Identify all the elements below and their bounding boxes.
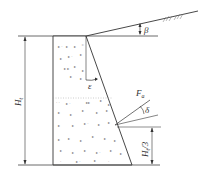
delta-label: δ	[145, 105, 150, 115]
svg-text:▸: ▸	[74, 44, 76, 49]
svg-text:▸ ▸: ▸ ▸	[64, 66, 69, 71]
svg-text:▸: ▸	[98, 122, 100, 127]
svg-text:▸: ▸	[80, 138, 82, 143]
svg-text:▸: ▸	[84, 148, 86, 153]
backfill-slope-line	[86, 11, 198, 36]
svg-text:▸: ▸	[108, 120, 110, 125]
svg-text:· ·: · ·	[56, 100, 60, 105]
svg-text:▸: ▸	[108, 102, 110, 107]
svg-text:▸: ▸	[82, 68, 84, 73]
svg-text:▸▸: ▸▸	[86, 100, 90, 105]
svg-text:▸: ▸	[68, 136, 70, 141]
svg-text:▸: ▸	[70, 112, 72, 117]
h-label: Ht	[13, 98, 24, 108]
svg-text:▸: ▸	[72, 123, 74, 128]
svg-text:▸: ▸	[58, 110, 60, 115]
svg-text:·: ·	[108, 159, 109, 164]
svg-text:▸: ▸	[94, 158, 96, 163]
svg-text:▸: ▸	[80, 52, 82, 57]
svg-text:▸: ▸	[106, 108, 108, 113]
svg-text:▸ ·: ▸ ·	[76, 159, 81, 164]
force-label: Fa	[135, 88, 145, 99]
svg-text:▸: ▸	[82, 108, 84, 113]
retaining-wall-diagram: β ▸ ·▸▸▹ ▸▸ ·▸ ▸ ▸▸▸ ▸▸ · ·▸ ·▸▸▸▸ ▸▸▸▸▸…	[0, 0, 209, 192]
h3-label: Ht/3	[140, 141, 151, 158]
svg-text:▸: ▸	[100, 98, 102, 103]
svg-text:▸: ▸	[66, 44, 68, 49]
svg-text:▸ ·: ▸ ·	[68, 54, 73, 59]
svg-text:▸: ▸	[104, 136, 106, 141]
svg-text:▸ ·: ▸ ·	[84, 121, 89, 126]
svg-text:▸: ▸	[92, 134, 94, 139]
svg-text:▸ ·: ▸ ·	[96, 150, 101, 155]
svg-text:▸: ▸	[120, 151, 122, 156]
epsilon-label: ε	[88, 81, 92, 91]
svg-text:▸: ▸	[70, 74, 72, 79]
svg-text:▸ ·: ▸ ·	[66, 101, 71, 106]
svg-text:▸ ·: ▸ ·	[58, 44, 63, 49]
svg-text:▸: ▸	[114, 138, 116, 143]
svg-text:▸: ▸	[72, 150, 74, 155]
svg-text:▸: ▸	[60, 56, 62, 61]
svg-text:▸: ▸	[58, 123, 60, 128]
svg-text:▸: ▸	[80, 76, 82, 81]
svg-text:▸: ▸	[60, 148, 62, 153]
delta-arc	[140, 106, 144, 114]
svg-text:▸: ▸	[110, 148, 112, 153]
svg-text:▹: ▹	[82, 42, 84, 47]
svg-text:▸: ▸	[96, 110, 98, 115]
retaining-wall	[53, 36, 132, 165]
svg-text:▸: ▸	[58, 137, 60, 142]
svg-text:·: ·	[60, 159, 61, 164]
beta-label: β	[143, 25, 149, 35]
svg-text:▸: ▸	[74, 64, 76, 69]
